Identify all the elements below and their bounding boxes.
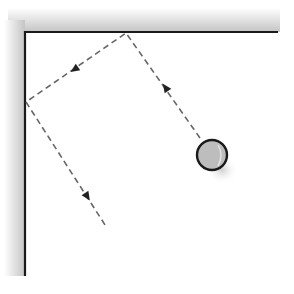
ball [197, 140, 227, 170]
top-wall-shadow [8, 8, 280, 32]
arrow-icon-up-left [160, 81, 172, 93]
left-wall-shadow [4, 20, 25, 276]
bounce-diagram [0, 0, 294, 294]
arrow-icon-down-right [82, 191, 94, 203]
arrow-icon-down-left [68, 64, 80, 76]
ball-path [26, 33, 200, 228]
